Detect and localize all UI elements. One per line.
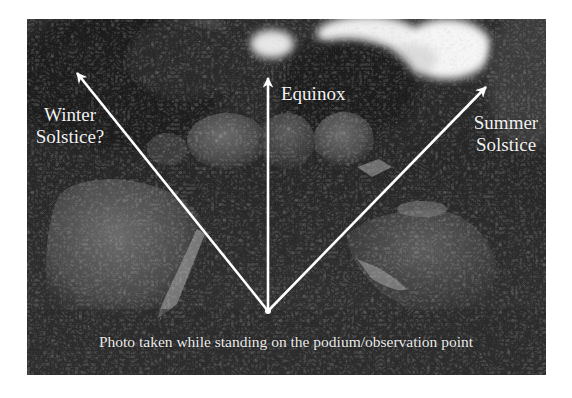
summer-solstice-label: Summer Solstice — [466, 112, 546, 156]
photo-caption: Photo taken while standing on the podium… — [40, 333, 532, 351]
summer-label-line1: Summer — [466, 112, 546, 134]
winter-label-line2: Solstice? — [30, 126, 110, 148]
photo-scene — [27, 19, 546, 375]
equinox-label: Equinox — [281, 84, 345, 103]
figure: Winter Solstice? Equinox Summer Solstice… — [0, 0, 572, 398]
winter-label-line1: Winter — [30, 104, 110, 126]
woodland-photo — [27, 19, 546, 375]
summer-label-line2: Solstice — [466, 134, 546, 156]
winter-solstice-label: Winter Solstice? — [30, 104, 110, 148]
